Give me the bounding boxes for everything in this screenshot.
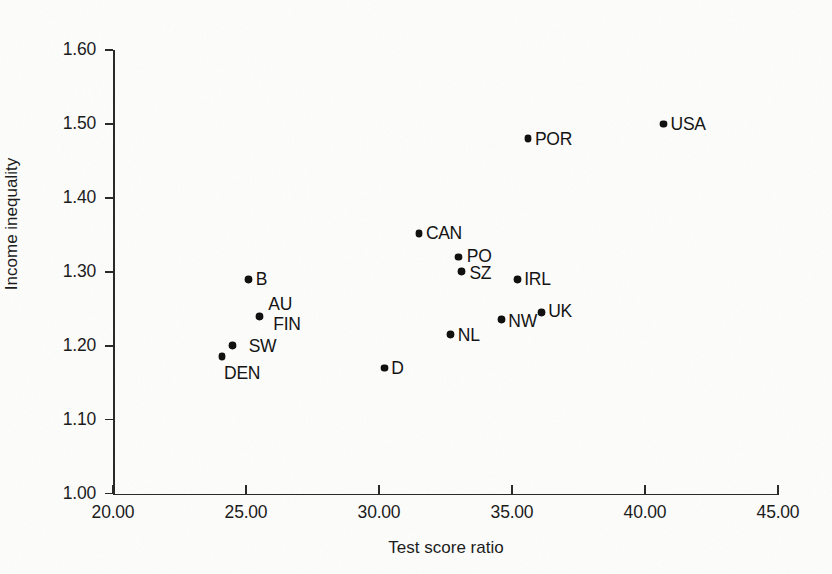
x-tick-label-40.00: 40.00	[600, 502, 690, 523]
y-axis-title: Income inequality	[2, 64, 22, 384]
x-tick-label-30.00: 30.00	[334, 502, 424, 523]
y-tick-1.40	[105, 197, 113, 199]
point-label-b: B	[256, 269, 267, 290]
point-label-fin: FIN	[273, 314, 300, 335]
point-label-sw: SW	[249, 336, 277, 357]
point-label-au: AU	[268, 294, 292, 315]
y-tick-1.10	[105, 419, 113, 421]
point-marker-icon	[538, 309, 545, 316]
x-axis-title: Test score ratio	[113, 538, 779, 558]
x-tick-label-20.00: 20.00	[68, 502, 158, 523]
point-marker-icon	[514, 276, 521, 283]
point-marker-icon	[381, 365, 388, 372]
point-label-nl: NL	[458, 325, 480, 346]
point-marker-icon	[498, 316, 505, 323]
y-tick-label-1.20: 1.20	[34, 335, 96, 356]
x-tick-label-35.00: 35.00	[467, 502, 557, 523]
y-tick-label-1.10: 1.10	[34, 409, 96, 430]
point-label-irl: IRL	[524, 269, 550, 290]
y-tick-1.20	[105, 345, 113, 347]
point-marker-icon	[245, 276, 252, 283]
y-tick-1.50	[105, 123, 113, 125]
point-label-uk: UK	[548, 301, 572, 322]
point-label-d: D	[391, 358, 403, 379]
y-tick-label-1.00: 1.00	[34, 483, 96, 504]
point-label-den: DEN	[224, 363, 260, 384]
point-label-nw: NW	[508, 311, 537, 332]
y-tick-label-1.40: 1.40	[34, 187, 96, 208]
point-label-por: POR	[535, 129, 572, 150]
point-marker-icon	[256, 313, 263, 320]
x-tick-label-25.00: 25.00	[201, 502, 291, 523]
y-tick-label-1.50: 1.50	[34, 113, 96, 134]
y-tick-label-1.60: 1.60	[34, 39, 96, 60]
y-tick-1.30	[105, 271, 113, 273]
y-tick-1.60	[105, 49, 113, 51]
point-label-usa: USA	[671, 114, 706, 135]
point-label-sz: SZ	[469, 263, 491, 284]
scatter-chart-figure: 1.001.101.201.301.401.501.60 20.0025.003…	[0, 0, 832, 574]
point-label-can: CAN	[426, 223, 462, 244]
point-marker-icon	[416, 230, 423, 237]
x-tick-label-45.00: 45.00	[733, 502, 823, 523]
y-tick-label-1.30: 1.30	[34, 261, 96, 282]
